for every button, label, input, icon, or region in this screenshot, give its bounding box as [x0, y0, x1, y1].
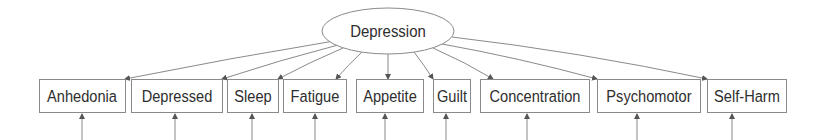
indicator-sleep: Sleep	[228, 80, 279, 113]
factor-diagram: Depression Anhedonia Depressed Sleep Fat…	[0, 0, 825, 140]
indicator-label: Psychomotor	[606, 87, 692, 105]
edge-depression-self-harm	[452, 37, 707, 79]
indicator-appetite: Appetite	[357, 80, 424, 113]
indicator-self-harm: Self-Harm	[708, 80, 787, 113]
indicator-anhedonia: Anhedonia	[40, 80, 126, 113]
latent-label: Depression	[350, 22, 426, 40]
indicator-psychomotor: Psychomotor	[598, 80, 701, 113]
indicator-nodes: Anhedonia Depressed Sleep Fatigue Appeti…	[40, 80, 787, 113]
indicator-label: Concentration	[490, 87, 581, 105]
latent-node-depression: Depression	[322, 8, 454, 54]
error-arrows	[82, 114, 732, 140]
edge-depression-anhedonia	[125, 41, 334, 79]
edge-depression-fatigue	[336, 52, 362, 79]
edge-depression-guilt	[414, 52, 433, 79]
indicator-depressed: Depressed	[132, 80, 223, 113]
indicator-label: Self-Harm	[714, 87, 780, 105]
edge-depression-concentration	[433, 48, 493, 79]
indicator-label: Anhedonia	[47, 87, 117, 105]
indicator-label: Depressed	[142, 87, 213, 105]
indicator-label: Guilt	[437, 87, 468, 105]
indicator-label: Sleep	[234, 87, 272, 105]
indicator-guilt: Guilt	[434, 80, 471, 113]
indicator-label: Fatigue	[291, 87, 340, 105]
edge-depression-psychomotor	[442, 44, 597, 79]
indicator-fatigue: Fatigue	[284, 80, 347, 113]
indicator-concentration: Concentration	[481, 80, 590, 113]
indicator-label: Appetite	[363, 87, 417, 105]
